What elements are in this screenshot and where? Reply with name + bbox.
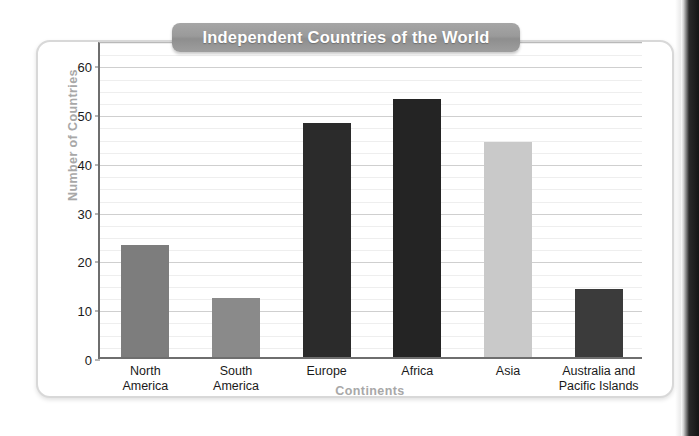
bar-fill xyxy=(212,298,260,357)
bar-fill xyxy=(393,99,441,357)
bar xyxy=(575,289,623,357)
y-axis-title: Number of Countries xyxy=(66,55,80,215)
y-tick-mark xyxy=(95,262,100,263)
x-tick-label: Asia xyxy=(496,364,520,379)
y-tick-mark xyxy=(95,311,100,312)
y-tick-mark xyxy=(95,116,100,117)
page-scan-edge xyxy=(681,0,699,436)
y-tick-mark xyxy=(95,360,100,361)
bar xyxy=(393,99,441,357)
y-tick-label: 30 xyxy=(78,206,92,221)
bar-fill xyxy=(303,123,351,357)
bar xyxy=(484,142,532,357)
y-tick-label: 10 xyxy=(78,304,92,319)
x-tick-label: Europe xyxy=(307,364,347,379)
bar-fill xyxy=(121,245,169,357)
bar-fill xyxy=(575,289,623,357)
bar xyxy=(121,245,169,357)
y-tick-mark xyxy=(95,164,100,165)
y-tick-label: 60 xyxy=(78,60,92,75)
bar-series xyxy=(100,43,642,357)
chart-title-banner: Independent Countries of the World xyxy=(172,23,520,52)
bar xyxy=(212,298,260,357)
chart-title-text: Independent Countries of the World xyxy=(203,28,490,47)
plot-area: 0102030405060NorthAmericaSouthAmericaEur… xyxy=(98,42,642,359)
bar xyxy=(303,123,351,357)
y-tick-mark xyxy=(95,213,100,214)
y-tick-label: 40 xyxy=(78,157,92,172)
y-tick-label: 20 xyxy=(78,255,92,270)
bar-chart: Number of Countries 0102030405060NorthAm… xyxy=(36,40,674,398)
x-axis-title: Continents xyxy=(98,384,642,398)
y-tick-label: 50 xyxy=(78,109,92,124)
y-tick-mark xyxy=(95,67,100,68)
y-tick-label: 0 xyxy=(85,353,92,368)
bar-fill xyxy=(484,142,532,357)
x-tick-label: Africa xyxy=(401,364,433,379)
